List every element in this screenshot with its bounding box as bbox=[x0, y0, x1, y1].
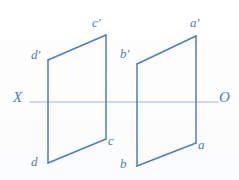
vertex-label-a-prime: a' bbox=[190, 16, 199, 29]
axis-label-o: O bbox=[219, 90, 230, 105]
vertex-label-d-prime: d' bbox=[31, 48, 40, 61]
edge-b-prime-a-prime bbox=[137, 36, 196, 64]
axis-label-x: X bbox=[13, 90, 22, 105]
vertex-label-a: a bbox=[198, 138, 205, 151]
edge-d-prime-c-prime bbox=[48, 35, 106, 60]
edge-d-c bbox=[48, 139, 106, 163]
vertex-label-c-prime: c' bbox=[92, 16, 101, 29]
geometry-canvas bbox=[0, 0, 239, 180]
vertex-label-b-prime: b' bbox=[120, 47, 129, 60]
vertex-label-b: b bbox=[120, 157, 127, 170]
edge-b-a bbox=[137, 143, 196, 166]
projection-diagram: d' c' b' a' c a d b X O bbox=[0, 0, 239, 180]
vertex-label-d: d bbox=[31, 155, 38, 168]
vertex-label-c: c bbox=[108, 134, 114, 147]
left-quadrilateral bbox=[48, 35, 106, 163]
right-quadrilateral bbox=[137, 36, 196, 166]
